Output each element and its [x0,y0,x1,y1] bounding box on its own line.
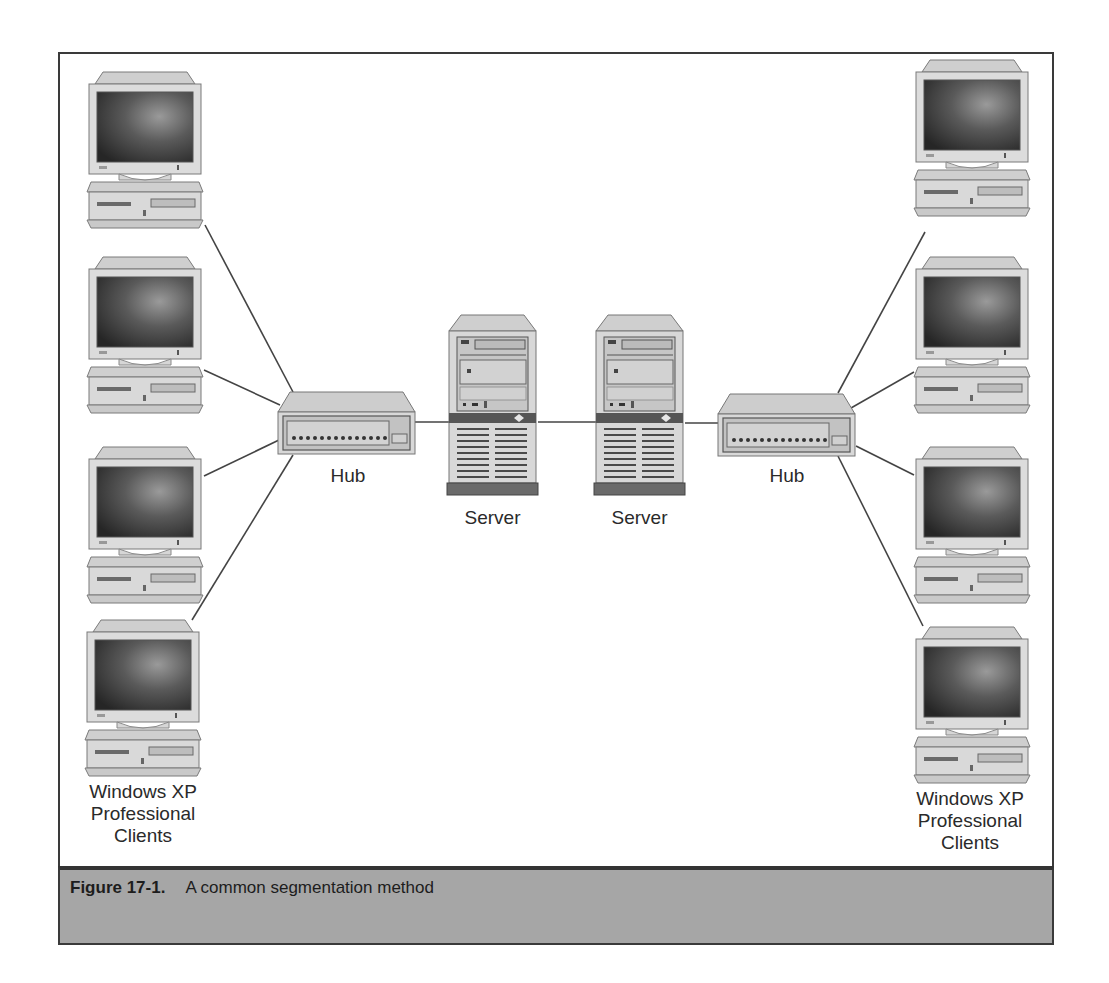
link-client-left-2-hub [204,370,280,405]
link-hub-right-client-right-2 [851,372,914,408]
clients-right-label-line-2: Professional [895,810,1045,832]
client-right-1-desktop-computer-icon [914,60,1030,216]
client-left-4-desktop-computer-icon [85,620,201,776]
hub-left-icon [278,392,415,454]
client-left-1-desktop-computer-icon [87,72,203,228]
clients-right-label: Windows XP Professional Clients [895,788,1045,854]
server-left-icon [447,315,538,495]
client-left-2-desktop-computer-icon [87,257,203,413]
server-right-icon [594,315,685,495]
link-hub-right-client-right-4 [838,456,923,626]
figure-caption-bar: Figure 17-1.A common segmentation method [58,866,1054,945]
client-left-3-desktop-computer-icon [87,447,203,603]
figure-caption: Figure 17-1.A common segmentation method [70,878,434,898]
figure-number: Figure 17-1. [70,878,165,897]
link-client-left-3-hub [204,440,279,476]
clients-left-label: Windows XP Professional Clients [68,781,218,847]
figure-title: A common segmentation method [185,878,434,897]
hub-right-icon [718,394,855,456]
hub-right-label: Hub [757,465,817,487]
client-right-2-desktop-computer-icon [914,257,1030,413]
clients-left-label-line-2: Professional [68,803,218,825]
server-right-label: Server [594,507,685,529]
clients-right-label-line-1: Windows XP [895,788,1045,810]
client-right-4-desktop-computer-icon [914,627,1030,783]
clients-left-label-line-1: Windows XP [68,781,218,803]
client-right-3-desktop-computer-icon [914,447,1030,603]
link-hub-right-client-right-1 [838,232,925,393]
hub-left-label: Hub [318,465,378,487]
link-hub-right-client-right-3 [856,446,914,475]
server-left-label: Server [447,507,538,529]
clients-left-label-line-3: Clients [68,825,218,847]
link-client-left-1-hub [205,225,293,392]
clients-right-label-line-3: Clients [895,832,1045,854]
link-client-left-4-hub [192,455,293,620]
